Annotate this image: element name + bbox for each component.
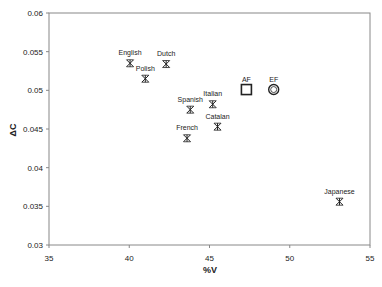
point-label: AF — [242, 76, 251, 83]
y-tick-label: 0.06 — [27, 9, 43, 18]
x-axis-ticks: 3540455055 — [45, 245, 375, 263]
point-label: Italian — [203, 90, 222, 97]
point-label: Catalan — [205, 113, 229, 120]
point-label: Japanese — [324, 188, 354, 196]
x-tick-label: 40 — [125, 254, 134, 263]
point-label: English — [119, 49, 142, 57]
y-tick-label: 0.035 — [23, 202, 44, 211]
y-tick-label: 0.03 — [27, 241, 43, 250]
point-label: EF — [269, 76, 278, 83]
point-label: Spanish — [178, 96, 203, 104]
y-axis-ticks: 0.030.0350.040.0450.050.0550.06 — [23, 9, 49, 250]
point-label: French — [176, 124, 198, 131]
y-tick-label: 0.04 — [27, 164, 43, 173]
point-label: Dutch — [157, 50, 175, 57]
point-label: Polish — [136, 65, 155, 72]
plot-area — [49, 13, 370, 245]
scatter-chart: 0.030.0350.040.0450.050.0550.06 35404550… — [0, 0, 382, 287]
y-axis-label: ΔC — [8, 123, 18, 136]
x-tick-label: 50 — [285, 254, 294, 263]
x-axis-label: %V — [203, 265, 217, 275]
x-tick-label: 45 — [205, 254, 214, 263]
x-tick-label: 55 — [366, 254, 375, 263]
y-tick-label: 0.05 — [27, 86, 43, 95]
y-tick-label: 0.055 — [23, 48, 44, 57]
y-tick-label: 0.045 — [23, 125, 44, 134]
x-tick-label: 35 — [45, 254, 54, 263]
